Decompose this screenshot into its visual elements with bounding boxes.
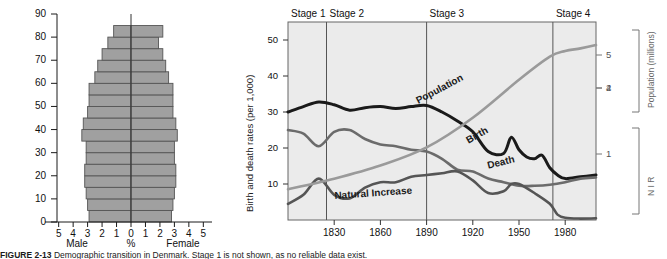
pyramid-bar-male (89, 95, 131, 107)
pyramid-y-tick-label: 0 (24, 216, 46, 227)
dtm-y-tick-label: 20 (260, 142, 278, 153)
pyramid-bar-male (89, 83, 131, 95)
pyramid-bar-female (131, 153, 174, 165)
pyramid-bar-female (131, 26, 163, 38)
pyramid-bar-male (82, 130, 131, 142)
pyramid-bar-male (95, 72, 131, 84)
dtm-x-tick-label: 1950 (502, 227, 536, 238)
dtm-y-tick-label: 40 (260, 70, 278, 81)
pyramid-bar-female (131, 95, 173, 107)
pyramid-bar-female (131, 49, 163, 61)
dtm-right-axis-ticks (596, 55, 602, 154)
pyramid-bar-male (114, 26, 131, 38)
nir-axis-bracket (632, 128, 639, 214)
pyramid-y-tick-label: 90 (24, 8, 46, 19)
dtm-x-tick-label: 1830 (317, 227, 351, 238)
dtm-y-tick-label: 10 (260, 178, 278, 189)
pyramid-bar-female (131, 118, 176, 130)
pyramid-bar-female (131, 72, 169, 84)
dtm-y-tick-label: 50 (260, 34, 278, 45)
pyramid-x-ticks (59, 222, 204, 227)
caption-figure-number: FIGURE 2-13 (0, 250, 52, 259)
nir-tick-label: 2 (606, 82, 620, 93)
pyramid-bar-male (83, 118, 131, 130)
pyramid-bar-female (131, 141, 174, 153)
pyramid-bar-male (89, 210, 131, 222)
figure-caption: FIGURE 2-13 Demographic transition in De… (0, 250, 667, 259)
pyramid-y-ticks (51, 14, 57, 222)
dtm-stage-label: Stage 4 (556, 8, 590, 19)
figure-container: 0102030405060708090 54321012345 Male % F… (0, 0, 667, 259)
demographic-transition-chart: Stage 1Stage 2Stage 3Stage 4 1020304050 … (228, 0, 667, 250)
pyramid-y-tick-label: 30 (24, 147, 46, 158)
pyramid-y-tick-label: 80 (24, 31, 46, 42)
pyramid-bar-female (131, 199, 173, 211)
caption-body: Demographic transition in Denmark. Stage… (54, 250, 367, 259)
pyramid-bar-male (86, 153, 131, 165)
dtm-y-axis-title: Birth and death rates (per 1,000) (244, 75, 255, 212)
pyramid-bar-male (98, 60, 131, 72)
population-axis-bracket (632, 30, 639, 112)
pyramid-male-label: Male (46, 238, 108, 249)
pyramid-y-tick-label: 50 (24, 100, 46, 111)
dtm-x-tick-label: 1890 (410, 227, 444, 238)
dtm-stage-label: Stage 2 (330, 8, 364, 19)
pyramid-bar-male (86, 187, 131, 199)
pyramid-y-tick-label: 20 (24, 170, 46, 181)
pyramid-bar-male (88, 199, 131, 211)
pyramid-bar-female (131, 130, 177, 142)
pyramid-bar-male (102, 49, 131, 61)
pyramid-female-label: Female (152, 238, 214, 249)
dtm-plot-area (228, 0, 667, 250)
dtm-stage-label: Stage 1 (291, 8, 325, 19)
pyramid-bar-female (131, 83, 173, 95)
pyramid-bar-female (131, 176, 176, 188)
dtm-x-tick-label: 1980 (548, 227, 582, 238)
pyramid-bar-female (131, 106, 173, 118)
pyramid-bar-male (86, 141, 131, 153)
pyramid-bar-female (131, 187, 174, 199)
pyramid-bar-female (131, 37, 158, 49)
pyramid-percent-label: % (118, 238, 144, 249)
dtm-x-ticks (334, 220, 565, 225)
pyramid-y-tick-label: 40 (24, 124, 46, 135)
pyramid-bar-male (85, 164, 131, 176)
dtm-y-tick-label: 30 (260, 106, 278, 117)
pyramid-bar-male (108, 37, 131, 49)
dtm-stage-label: Stage 3 (430, 8, 464, 19)
population-axis-title: Population (millions) (646, 31, 656, 108)
pyramid-bar-male (88, 106, 131, 118)
population-tick-label: 5 (606, 49, 620, 60)
pyramid-bars (82, 26, 177, 222)
pyramid-y-tick-label: 70 (24, 54, 46, 65)
pyramid-y-tick-label: 60 (24, 77, 46, 88)
pyramid-y-tick-label: 10 (24, 193, 46, 204)
pyramid-bar-female (131, 164, 176, 176)
pyramid-bar-male (85, 176, 131, 188)
population-pyramid-chart: 0102030405060708090 54321012345 Male % F… (0, 0, 228, 250)
dtm-x-tick-label: 1860 (363, 227, 397, 238)
pyramid-bar-female (131, 60, 166, 72)
nir-tick-label: 1 (606, 148, 620, 159)
nir-axis-title: N I R (646, 177, 656, 196)
dtm-x-tick-label: 1920 (456, 227, 490, 238)
pyramid-bar-female (131, 210, 172, 222)
